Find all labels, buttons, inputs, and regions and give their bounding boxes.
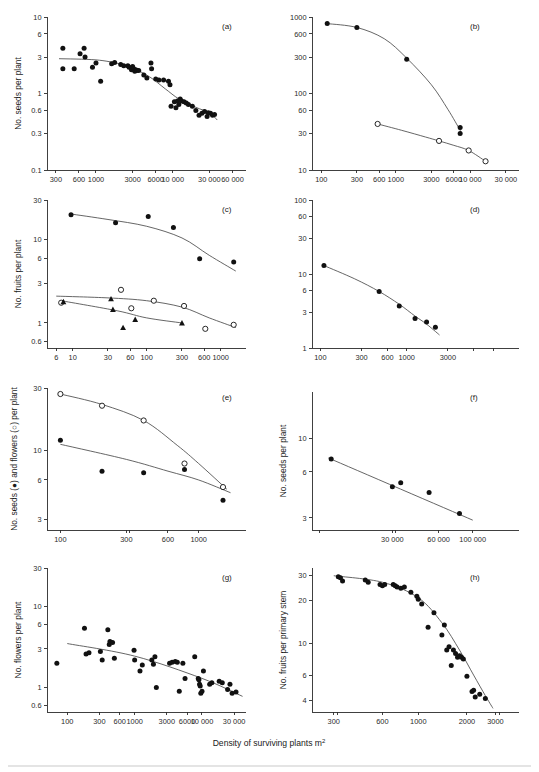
- panel-f-fit-f: [328, 458, 472, 520]
- data-point-filled: [90, 65, 95, 70]
- data-point-filled: [424, 319, 429, 324]
- panel-c-xticklabel: 600: [198, 353, 210, 362]
- data-point-filled: [161, 78, 166, 83]
- panel-a-yticklabel: 0.1: [31, 166, 41, 175]
- data-point-filled: [132, 648, 137, 653]
- data-point-filled: [60, 46, 65, 51]
- panel-e-yticklabel: 3: [37, 515, 41, 524]
- panel-g-xticklabel: 30 000: [223, 717, 246, 726]
- panel-c-xticklabel: 6: [54, 353, 58, 362]
- data-point-filled: [149, 66, 154, 71]
- data-point-filled: [110, 640, 115, 645]
- panel-d-yticklabel: 1: [302, 344, 306, 353]
- panel-d-yticklabel: 30: [298, 234, 306, 243]
- panel-f-yticklabel: 10: [298, 434, 306, 443]
- panel-g-series-flowers: [54, 626, 238, 696]
- data-point-filled: [132, 657, 137, 662]
- figure-xlabel-superscript: 2: [322, 738, 326, 744]
- data-point-filled: [152, 654, 157, 659]
- panel-f-label: (f): [470, 393, 478, 402]
- data-point-filled: [419, 601, 424, 606]
- panel-a-yticklabel: 6: [37, 30, 41, 39]
- panel-g-label: (g): [222, 573, 232, 582]
- data-point-filled: [477, 692, 482, 697]
- panel-e-series-flowers-open: [58, 391, 226, 489]
- panel-a-label: (a): [222, 22, 232, 31]
- data-point-filled: [461, 656, 466, 661]
- figure-xlabel-text: Density of surviving plants m2: [213, 738, 326, 748]
- data-point-filled: [54, 661, 59, 666]
- panel-b-axes: [312, 17, 519, 170]
- panel-a-ylabel: No. seeds per plant: [13, 57, 23, 130]
- data-point-filled: [82, 46, 87, 51]
- data-point-filled: [431, 610, 436, 615]
- data-point-filled: [382, 582, 387, 587]
- panel-g-yticklabel: 6: [37, 620, 41, 629]
- panel-a-xticklabel: 1000: [88, 175, 104, 184]
- multi-panel-chart: 0.10.30.61361030060010003000600010 00030…: [0, 0, 539, 772]
- panel-a-yticklabel: 0.6: [31, 106, 41, 115]
- panel-d-yticklabel: 3: [302, 308, 306, 317]
- panel-c-fit-filled: [69, 214, 235, 271]
- data-point-filled: [404, 57, 409, 62]
- panel-g: 0.6136103010030060010003000600010 00030 …: [13, 564, 246, 726]
- panel-e-label: (e): [222, 393, 232, 402]
- data-point-filled: [427, 490, 432, 495]
- panel-c: 0.6136103061030601003006001000(c)No. fru…: [13, 196, 246, 362]
- panel-g-yticklabel: 30: [33, 564, 41, 573]
- panel-g-yticklabel: 1: [37, 683, 41, 692]
- data-point-filled: [366, 580, 371, 585]
- panel-g-xticklabel: 10 000: [191, 717, 214, 726]
- data-point-filled: [183, 676, 188, 681]
- panel-b-xticklabel: 1000: [388, 175, 404, 184]
- panel-a-xticklabel: 3000: [124, 175, 140, 184]
- data-point-filled: [156, 78, 161, 83]
- data-point-filled: [483, 696, 488, 701]
- panel-h-xticklabel: 300: [328, 717, 340, 726]
- data-point-open: [141, 418, 146, 423]
- panel-b-xticklabel: 3000: [423, 175, 439, 184]
- panel-a-yticklabel: 3: [37, 53, 41, 62]
- panel-b-series-filled: [325, 21, 463, 136]
- data-point-filled: [69, 212, 74, 217]
- panel-a-xticklabel: 60 000: [221, 175, 244, 184]
- data-point-filled: [471, 688, 476, 693]
- data-point-filled: [112, 60, 117, 65]
- panel-e-yticklabel: 6: [37, 476, 41, 485]
- panel-f: 361030 00060 000100 000(f)No. seeds per …: [278, 392, 519, 544]
- panel-a-yticklabel: 0.3: [31, 129, 41, 138]
- panel-h-xticklabel: 1000: [410, 717, 426, 726]
- data-point-open: [99, 403, 104, 408]
- panel-d-fit-d: [324, 266, 440, 335]
- data-point-filled: [86, 650, 91, 655]
- data-point-filled: [98, 79, 103, 84]
- panel-a-yticklabel: 10: [33, 13, 41, 22]
- data-point-open: [375, 121, 380, 126]
- panel-b-xticklabel: 100: [315, 175, 327, 184]
- data-point-filled: [200, 689, 205, 694]
- panel-d-xticklabel: 1000: [398, 353, 414, 362]
- panel-d-yticklabel: 6: [302, 286, 306, 295]
- panel-b-yticklabel: 30: [298, 129, 306, 138]
- panel-e-yticklabel: 30: [33, 384, 41, 393]
- data-point-filled: [154, 685, 159, 690]
- panel-d-xticklabel: 100: [314, 353, 326, 362]
- panel-b-yticklabel: 10: [298, 166, 306, 175]
- panel-f-axes: [312, 392, 519, 530]
- panel-h: 46102030300600100020003000(h)No. fruits …: [278, 568, 519, 726]
- panel-e-xticklabel: 300: [120, 535, 132, 544]
- panel-c-xticklabel: 300: [176, 353, 188, 362]
- panel-e-ylabel: No. seeds (●) and flowers (○) per plant: [9, 386, 19, 530]
- data-point-filled: [212, 112, 217, 117]
- panel-e-xticklabel: 100: [54, 535, 66, 544]
- data-point-open: [58, 391, 63, 396]
- data-point-filled: [151, 662, 156, 667]
- data-point-filled: [100, 657, 105, 662]
- panel-a-xticklabel: 10 000: [161, 175, 184, 184]
- data-point-filled: [175, 660, 180, 665]
- panel-e-xticklabel: 1000: [190, 535, 206, 544]
- data-point-open: [483, 159, 488, 164]
- panel-g-xticklabel: 3000: [159, 717, 175, 726]
- data-point-filled: [93, 61, 98, 66]
- data-point-filled: [98, 649, 103, 654]
